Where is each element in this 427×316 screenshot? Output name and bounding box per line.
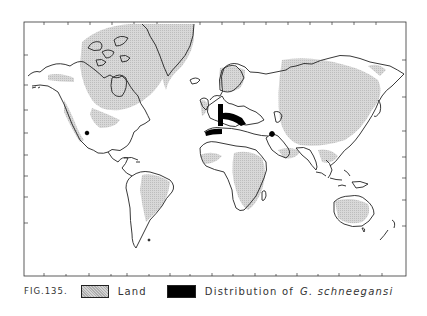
bottom-ticks xyxy=(44,273,382,276)
legend-land-label: Land xyxy=(118,286,147,297)
left-ticks xyxy=(24,55,28,223)
distribution-dot-middle-east xyxy=(270,132,275,137)
figure-label: FIG.135. xyxy=(24,286,68,296)
land-swatch xyxy=(81,285,109,298)
right-ticks xyxy=(402,60,406,226)
legend: FIG.135. Land Distribution of G. schneeg… xyxy=(24,283,393,299)
top-ticks xyxy=(44,22,376,25)
world-map xyxy=(0,0,427,316)
distribution-central-europe xyxy=(218,104,246,126)
land-shading xyxy=(48,24,386,223)
distribution-dot-california xyxy=(85,131,89,135)
species-name: G. schneegansi xyxy=(300,286,393,297)
legend-distribution-label: Distribution of xyxy=(205,286,294,297)
distribution-swatch xyxy=(167,285,196,298)
